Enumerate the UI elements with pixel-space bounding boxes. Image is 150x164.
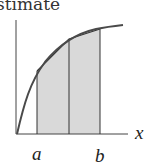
trapezoid-diagram: x a b (0, 0, 150, 164)
trapezoid-2 (69, 29, 100, 134)
x-axis-label: x (134, 122, 144, 143)
label-a: a (32, 143, 42, 164)
label-b: b (95, 145, 105, 164)
